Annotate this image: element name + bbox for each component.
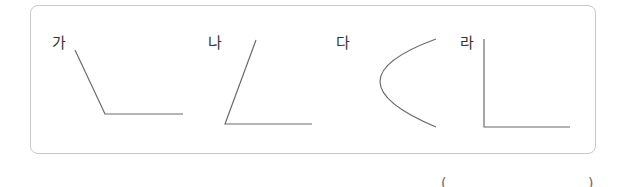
curve-figure bbox=[380, 39, 436, 127]
answer-open-paren: ( bbox=[441, 176, 446, 187]
answer-close-paren: ) bbox=[588, 176, 593, 187]
right-angle-figure bbox=[484, 39, 570, 127]
figures-canvas bbox=[0, 0, 620, 187]
acute-angle-figure bbox=[225, 40, 312, 124]
obtuse-angle-figure bbox=[75, 50, 183, 114]
answer-input-area[interactable] bbox=[452, 172, 582, 187]
